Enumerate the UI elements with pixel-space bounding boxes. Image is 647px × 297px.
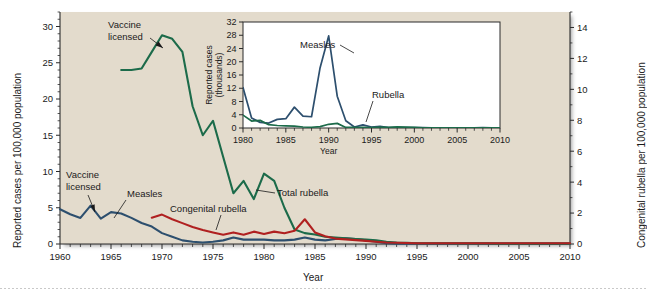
- inset-panel: [243, 22, 500, 128]
- svg-text:1960: 1960: [49, 251, 70, 262]
- svg-text:2000: 2000: [404, 135, 424, 145]
- svg-text:2005: 2005: [508, 251, 529, 262]
- svg-text:24: 24: [226, 44, 236, 54]
- svg-text:8: 8: [577, 115, 582, 126]
- svg-text:20: 20: [42, 93, 53, 104]
- svg-text:1970: 1970: [151, 251, 172, 262]
- svg-text:1985: 1985: [276, 135, 296, 145]
- x-axis: 1960196519701975198019851990199520002005…: [49, 244, 580, 262]
- anno-vaccine-licensed-measles-l1: Vaccine: [66, 169, 99, 180]
- svg-text:1975: 1975: [202, 251, 223, 262]
- svg-text:25: 25: [42, 57, 53, 68]
- svg-text:5: 5: [48, 202, 53, 213]
- svg-text:32: 32: [226, 17, 236, 27]
- inset-anno-measles: Measles: [300, 39, 336, 50]
- svg-text:1980: 1980: [233, 135, 253, 145]
- inset-anno-rubella: Rubella: [372, 89, 405, 100]
- svg-text:4: 4: [231, 110, 236, 120]
- series-measles: [60, 206, 570, 244]
- bottom-divider: [0, 288, 646, 289]
- svg-text:16: 16: [226, 70, 236, 80]
- svg-text:20: 20: [226, 57, 236, 67]
- svg-text:6: 6: [577, 146, 582, 157]
- svg-text:2000: 2000: [457, 251, 478, 262]
- svg-text:2: 2: [577, 207, 582, 218]
- y-left-axis: 051015202530: [42, 12, 60, 249]
- svg-text:15: 15: [42, 130, 53, 141]
- svg-text:1980: 1980: [253, 251, 274, 262]
- anno-congenital-rubella: Congenital rubella: [170, 203, 247, 214]
- svg-text:10: 10: [42, 166, 53, 177]
- anno-measles: Measles: [127, 188, 163, 199]
- svg-text:1965: 1965: [100, 251, 121, 262]
- svg-text:8: 8: [231, 97, 236, 107]
- svg-text:2010: 2010: [559, 251, 580, 262]
- svg-text:1990: 1990: [355, 251, 376, 262]
- svg-text:12: 12: [577, 53, 588, 64]
- svg-text:1985: 1985: [304, 251, 325, 262]
- svg-text:2010: 2010: [490, 135, 510, 145]
- svg-text:0: 0: [577, 238, 582, 249]
- anno-vaccine-licensed-rubella-l2: licensed: [108, 31, 143, 42]
- svg-text:1995: 1995: [361, 135, 381, 145]
- inset-y-axis-title: Reported cases(thousands): [204, 45, 223, 105]
- svg-text:0: 0: [231, 123, 236, 133]
- svg-text:10: 10: [577, 84, 588, 95]
- svg-text:1990: 1990: [319, 135, 339, 145]
- anno-vaccine-licensed-rubella-l1: Vaccine: [108, 19, 141, 30]
- svg-text:14: 14: [577, 22, 588, 33]
- anno-total-rubella: Total rubella: [277, 187, 329, 198]
- svg-text:2005: 2005: [447, 135, 467, 145]
- y-right-axis: 02468101214: [570, 12, 588, 249]
- svg-text:4: 4: [577, 177, 582, 188]
- svg-text:12: 12: [226, 83, 236, 93]
- svg-text:0: 0: [48, 238, 53, 249]
- anno-vaccine-licensed-measles-l2: licensed: [66, 181, 101, 192]
- svg-text:28: 28: [226, 30, 236, 40]
- inset-x-axis-title: Year: [320, 146, 337, 156]
- inset-chart: 0481216202428321980198519901995200020052…: [204, 17, 510, 156]
- svg-text:30: 30: [42, 21, 53, 32]
- svg-text:1995: 1995: [406, 251, 427, 262]
